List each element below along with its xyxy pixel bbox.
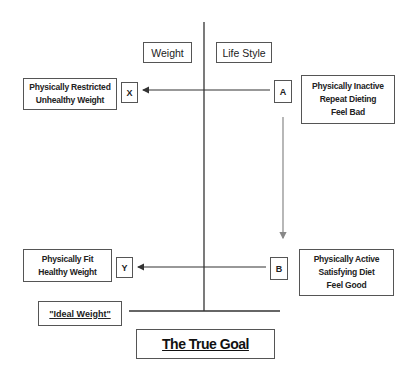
state-line: Physically Restricted xyxy=(29,81,110,94)
state-line: Physically Inactive xyxy=(312,80,384,93)
state-line: Healthy Weight xyxy=(38,266,96,279)
label-b-box: B xyxy=(270,257,288,280)
healthy-weight-box: Physically Fit Healthy Weight xyxy=(23,249,112,282)
weight-header: Weight xyxy=(143,42,192,63)
label-y-box: Y xyxy=(116,257,133,278)
label-a-box: A xyxy=(274,80,292,103)
label-x: X xyxy=(126,88,132,98)
label-b: B xyxy=(276,264,283,274)
weight-header-text: Weight xyxy=(151,47,184,59)
label-x-box: X xyxy=(121,82,138,103)
state-line: Physically Active xyxy=(314,253,380,266)
state-line: Feel Bad xyxy=(331,106,365,119)
ideal-weight-text: "Ideal Weight" xyxy=(49,309,110,319)
label-a: A xyxy=(280,87,287,97)
state-line: Feel Good xyxy=(327,279,367,292)
active-lifestyle-box: Physically Active Satisfying Diet Feel G… xyxy=(299,249,394,296)
true-goal-text: The True Goal xyxy=(162,336,249,352)
state-line: Physically Fit xyxy=(42,253,94,266)
state-line: Unhealthy Weight xyxy=(36,94,104,107)
true-goal-box: The True Goal xyxy=(136,329,275,359)
unhealthy-weight-box: Physically Restricted Unhealthy Weight xyxy=(23,78,117,110)
inactive-lifestyle-box: Physically Inactive Repeat Dieting Feel … xyxy=(301,75,395,124)
state-line: Satisfying Diet xyxy=(318,266,374,279)
ideal-weight-box: "Ideal Weight" xyxy=(38,301,122,326)
lifestyle-header-text: Life Style xyxy=(222,47,265,59)
state-line: Repeat Dieting xyxy=(320,93,377,106)
label-y: Y xyxy=(121,263,127,273)
lifestyle-header: Life Style xyxy=(216,42,272,63)
